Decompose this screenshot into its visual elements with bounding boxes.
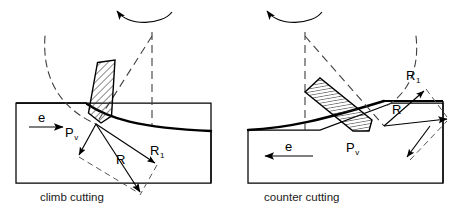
rotation-arrow-right — [267, 11, 322, 22]
cutting-tool-left — [89, 60, 116, 123]
panel-climb-cutting: e Pv R R1 climb cutting — [16, 11, 211, 203]
cutting-tool-body — [89, 60, 116, 123]
label-r-left: R — [116, 152, 125, 167]
milling-comparison-figure: e Pv R R1 climb cutting — [0, 0, 459, 216]
feed-label-right: e — [285, 139, 292, 154]
caption-counter-cutting: counter cutting — [264, 191, 339, 203]
feed-label-left: e — [38, 110, 45, 125]
rotation-arrow-left — [117, 11, 172, 22]
label-r-right: R — [392, 102, 401, 117]
label-r1-right: R1 — [406, 68, 421, 85]
diagram-canvas: e Pv R R1 climb cutting — [0, 0, 459, 216]
workpiece-climb — [16, 103, 211, 183]
workpiece-outline — [16, 103, 211, 183]
panel-counter-cutting: e Pv R R1 counter cutting — [248, 11, 447, 203]
caption-climb-cutting: climb cutting — [40, 191, 104, 203]
